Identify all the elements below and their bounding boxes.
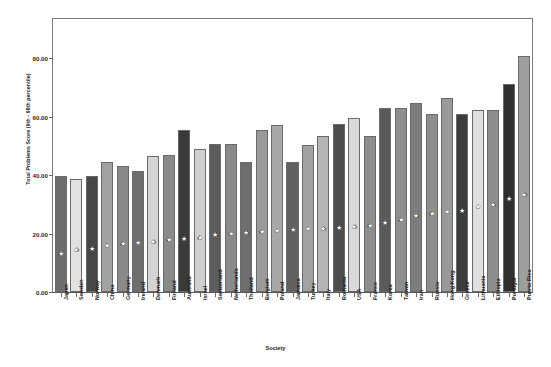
bar bbox=[379, 108, 391, 292]
x-axis-tick-mark bbox=[293, 293, 294, 297]
x-axis-tick-mark bbox=[107, 293, 108, 297]
x-axis-tick-mark bbox=[61, 293, 62, 297]
x-axis-category-label: Russia bbox=[434, 282, 440, 300]
y-axis-tick-mark bbox=[49, 175, 53, 176]
bar bbox=[410, 103, 422, 292]
bar bbox=[55, 176, 67, 292]
x-axis-category-label: Poland bbox=[279, 282, 285, 300]
bar bbox=[503, 84, 515, 292]
bar bbox=[302, 145, 314, 292]
x-axis-tick-mark bbox=[432, 293, 433, 297]
chart-canvas: Total Problems Score (9th - 98th percent… bbox=[0, 0, 551, 367]
x-axis-tick-mark bbox=[246, 293, 247, 297]
x-axis-tick-mark bbox=[169, 293, 170, 297]
x-axis-tick-mark bbox=[231, 293, 232, 297]
x-axis-category-label: Greece bbox=[464, 281, 470, 300]
y-axis-tick-label: 60.00 bbox=[8, 113, 48, 120]
y-axis-tick-mark bbox=[49, 117, 53, 118]
x-axis-tick-mark bbox=[447, 293, 448, 297]
bar bbox=[194, 149, 206, 292]
x-axis-category-label: Ireland bbox=[140, 282, 146, 300]
x-axis-category-label: Japan bbox=[63, 284, 69, 300]
bar bbox=[163, 155, 175, 292]
bar bbox=[117, 166, 129, 292]
x-axis-category-label: Lithuania bbox=[480, 276, 486, 300]
y-axis-tick-mark bbox=[49, 58, 53, 59]
bar bbox=[147, 156, 159, 292]
x-axis-category-label: Turkey bbox=[310, 282, 316, 300]
bar bbox=[456, 114, 468, 292]
bar bbox=[317, 136, 329, 292]
bar bbox=[132, 171, 144, 292]
y-axis-tick-label: 20.00 bbox=[8, 230, 48, 237]
x-axis-category-label: Taiwan bbox=[403, 282, 409, 300]
x-axis-tick-mark bbox=[478, 293, 479, 297]
bar bbox=[271, 125, 283, 292]
bar bbox=[333, 124, 345, 292]
x-axis-category-label: Romania bbox=[341, 277, 347, 300]
x-axis-tick-mark bbox=[370, 293, 371, 297]
x-axis-tick-mark bbox=[509, 293, 510, 297]
x-axis-category-label: Korea bbox=[387, 284, 393, 300]
x-axis-category-label: Denmark bbox=[155, 277, 161, 300]
x-axis-category-label: Ethiopia bbox=[495, 278, 501, 300]
x-axis-tick-mark bbox=[123, 293, 124, 297]
x-axis-category-label: USA bbox=[356, 288, 362, 300]
bar bbox=[101, 162, 113, 292]
x-axis-tick-mark bbox=[308, 293, 309, 297]
bar bbox=[86, 176, 98, 292]
x-axis-category-label: Thailand bbox=[248, 277, 254, 300]
x-axis-tick-mark bbox=[262, 293, 263, 297]
x-axis-category-label: Iran bbox=[418, 290, 424, 300]
bar bbox=[472, 110, 484, 292]
x-axis-category-label: Belgium bbox=[264, 278, 270, 300]
bar bbox=[178, 130, 190, 292]
y-axis-tick-label: 0.00 bbox=[8, 289, 48, 296]
x-axis-category-label: Hong Kong bbox=[449, 271, 455, 301]
bar bbox=[364, 136, 376, 292]
y-axis-title: Total Problems Score (9th - 98th percent… bbox=[25, 49, 31, 209]
y-axis-tick-label: 40.00 bbox=[8, 172, 48, 179]
x-axis-category-label: Portugal bbox=[511, 278, 517, 300]
bar bbox=[70, 179, 82, 292]
x-axis-category-label: Netherlands bbox=[233, 268, 239, 300]
bar bbox=[518, 56, 530, 292]
bar bbox=[240, 162, 252, 292]
x-axis-tick-mark bbox=[277, 293, 278, 297]
x-axis-category-label: Australia bbox=[186, 276, 192, 300]
x-axis-title: Society bbox=[0, 345, 551, 351]
x-axis-tick-mark bbox=[416, 293, 417, 297]
x-axis-category-label: Finland bbox=[171, 280, 177, 300]
bar bbox=[395, 108, 407, 292]
x-axis-tick-mark bbox=[200, 293, 201, 297]
y-axis-tick-mark bbox=[49, 234, 53, 235]
y-axis-tick-label: 80.00 bbox=[8, 55, 48, 62]
x-axis-category-label: Switzerland bbox=[217, 269, 223, 300]
x-axis-category-label: Norway bbox=[94, 280, 100, 300]
x-axis-category-label: Israel bbox=[202, 286, 208, 300]
x-axis-category-label: Jamaica bbox=[295, 278, 301, 300]
bar bbox=[487, 110, 499, 292]
x-axis-tick-mark bbox=[138, 293, 139, 297]
x-axis-tick-mark bbox=[92, 293, 93, 297]
bar bbox=[426, 114, 438, 292]
x-axis-category-label: France bbox=[372, 282, 378, 300]
x-axis-tick-mark bbox=[401, 293, 402, 297]
x-axis-category-label: China bbox=[109, 285, 115, 300]
x-axis-tick-mark bbox=[339, 293, 340, 297]
bar bbox=[256, 130, 268, 292]
y-axis-tick-mark bbox=[49, 292, 53, 293]
bar bbox=[286, 162, 298, 292]
x-axis-category-label: Puerto Rico bbox=[526, 269, 532, 300]
x-axis-category-label: Sweden bbox=[78, 279, 84, 300]
bar bbox=[348, 118, 360, 292]
x-axis-category-label: Germany bbox=[125, 276, 131, 300]
x-axis-category-label: Italy bbox=[325, 289, 331, 300]
bar bbox=[441, 98, 453, 292]
